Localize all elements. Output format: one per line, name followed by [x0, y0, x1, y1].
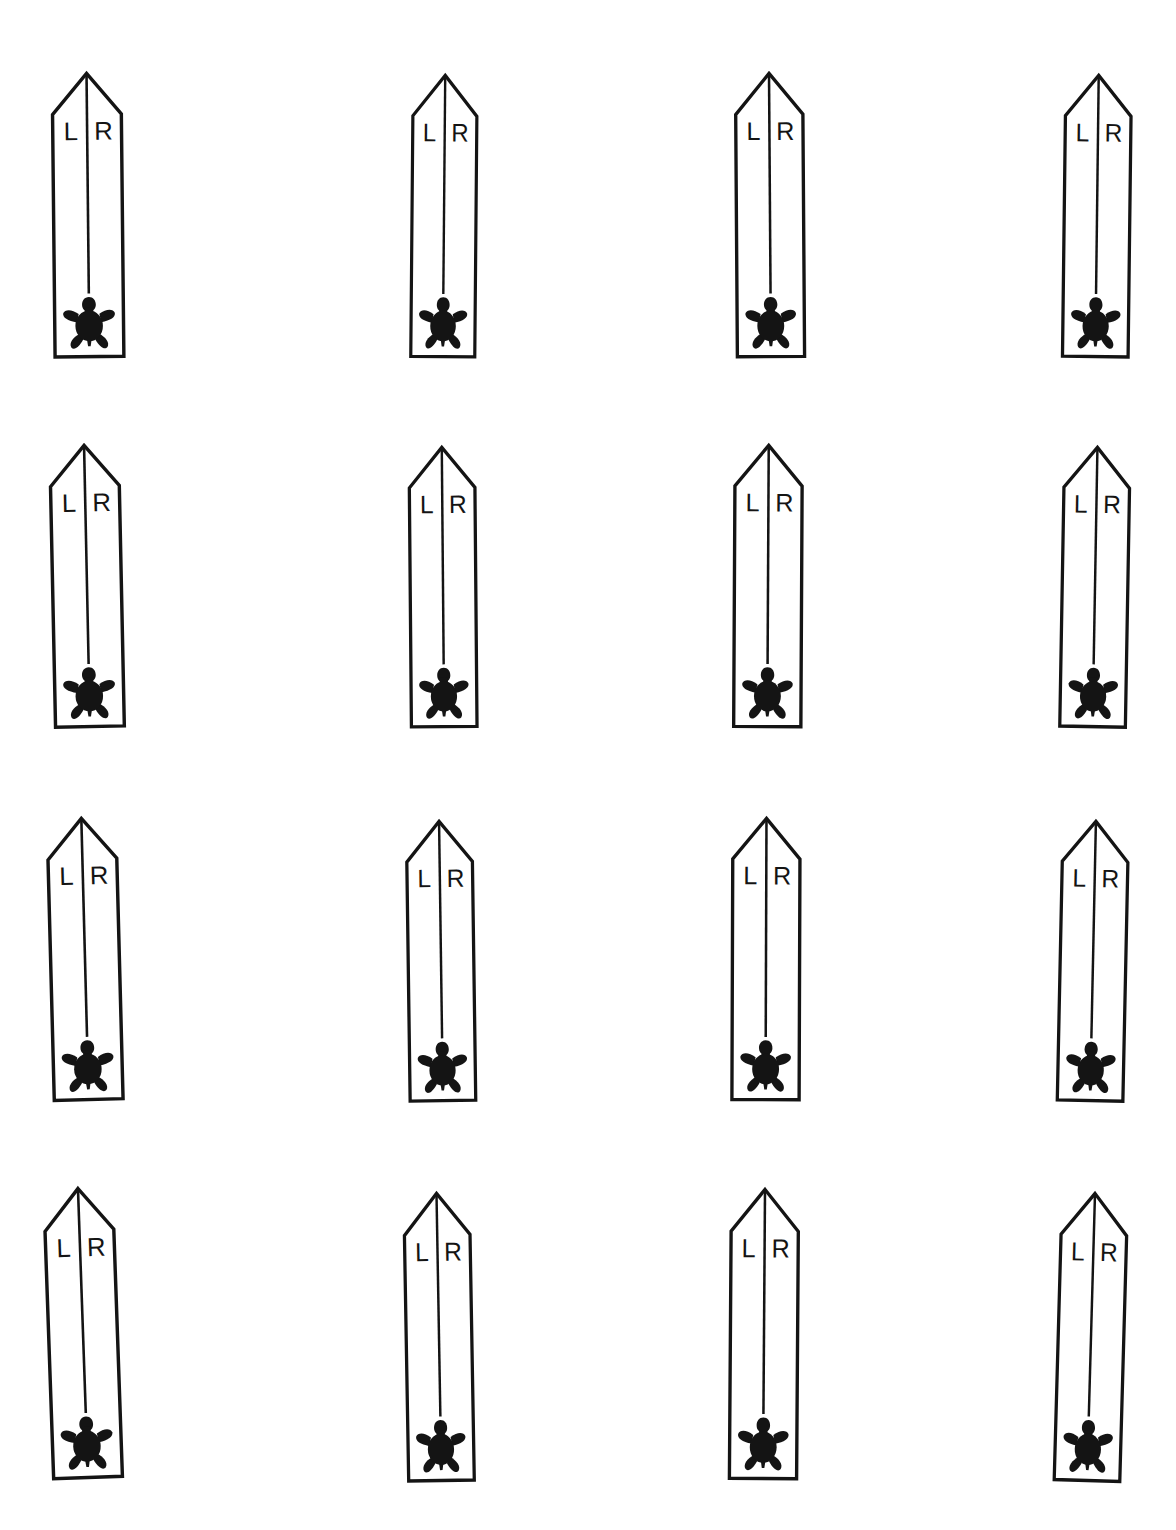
turtle-icon — [1071, 297, 1121, 349]
turtle-icon — [61, 1040, 114, 1093]
center-divider-line — [766, 820, 767, 1037]
label-right-r: R — [1103, 490, 1121, 519]
label-right-r: R — [87, 1232, 107, 1261]
label-right-r: R — [1105, 118, 1123, 147]
center-divider-line — [768, 447, 769, 664]
turtle-marker: LR — [727, 70, 813, 361]
label-left-l: L — [746, 117, 760, 145]
label-right-r: R — [775, 488, 793, 516]
center-divider-line — [78, 1190, 86, 1413]
center-divider-line — [1089, 1195, 1095, 1416]
center-divider-line — [763, 1191, 765, 1414]
turtle-marker: LR — [1046, 1189, 1136, 1485]
center-divider-line — [443, 77, 445, 294]
turtle-marker: LR — [1049, 817, 1137, 1105]
turtle-icon — [1068, 667, 1118, 719]
label-left-l: L — [415, 1237, 429, 1266]
label-right-r: R — [444, 1237, 462, 1266]
center-divider-line — [437, 1195, 441, 1416]
center-divider-line — [1094, 449, 1098, 664]
turtle-icon — [63, 667, 116, 719]
turtle-icon — [419, 668, 469, 719]
turtle-icon — [742, 667, 793, 719]
turtle-icon — [63, 297, 115, 349]
turtle-marker: LR — [398, 817, 484, 1104]
center-divider-line — [769, 75, 771, 293]
turtle-marker: LR — [721, 1186, 807, 1483]
label-right-r: R — [446, 863, 464, 892]
label-right-r: R — [451, 119, 469, 147]
turtle-icon — [60, 1416, 114, 1470]
turtle-icon — [745, 297, 796, 349]
turtle-icon — [417, 1041, 467, 1093]
marker-sheet: LRLRLRLRLRLRLRLRLRLRLRLRLRLRLRLR — [0, 0, 1176, 1530]
label-right-r: R — [1101, 864, 1119, 893]
center-divider-line — [439, 823, 442, 1038]
label-right-r: R — [1100, 1238, 1119, 1267]
label-left-l: L — [61, 489, 76, 517]
turtle-marker: LR — [38, 814, 132, 1104]
label-right-r: R — [773, 861, 791, 889]
label-right-r: R — [449, 489, 467, 518]
turtle-icon — [419, 297, 468, 349]
center-divider-line — [442, 449, 444, 664]
label-left-l: L — [742, 1234, 756, 1263]
label-left-l: L — [420, 490, 434, 518]
label-right-r: R — [771, 1234, 789, 1263]
label-left-l: L — [743, 861, 757, 889]
label-left-l: L — [1075, 118, 1089, 147]
turtle-icon — [740, 1040, 791, 1091]
turtle-marker: LR — [41, 441, 133, 731]
center-divider-line — [1096, 77, 1099, 294]
center-divider-line — [81, 820, 87, 1037]
center-divider-line — [1091, 823, 1096, 1038]
label-left-l: L — [63, 117, 78, 145]
label-right-r: R — [776, 117, 794, 145]
label-right-r: R — [89, 861, 108, 889]
turtle-marker: LR — [1052, 443, 1139, 730]
label-left-l: L — [59, 862, 74, 890]
label-left-l: L — [1071, 1237, 1085, 1266]
turtle-marker: LR — [1054, 72, 1140, 361]
turtle-marker: LR — [723, 815, 808, 1103]
turtle-icon — [1066, 1041, 1116, 1093]
center-divider-line — [87, 75, 89, 293]
label-left-l: L — [745, 488, 759, 516]
turtle-marker: LR — [395, 1189, 482, 1484]
label-left-l: L — [1074, 489, 1088, 518]
turtle-icon — [1063, 1419, 1114, 1473]
turtle-marker: LR — [35, 1184, 131, 1483]
label-left-l: L — [1072, 863, 1086, 892]
label-right-r: R — [94, 117, 113, 145]
label-right-r: R — [92, 488, 111, 516]
turtle-icon — [738, 1417, 789, 1470]
label-left-l: L — [423, 119, 437, 147]
label-left-l: L — [56, 1234, 71, 1263]
turtle-marker: LR — [43, 70, 132, 361]
label-left-l: L — [417, 864, 431, 893]
turtle-marker: LR — [725, 442, 811, 730]
turtle-marker: LR — [401, 444, 485, 731]
center-divider-line — [84, 447, 89, 664]
turtle-marker: LR — [403, 72, 486, 361]
turtle-icon — [416, 1420, 466, 1473]
